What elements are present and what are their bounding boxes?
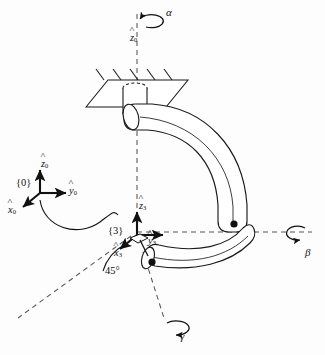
z0-axis-label: z0 [130,33,137,44]
joint-dot-upper [230,220,237,227]
frame0-x-label: x0 [8,205,16,216]
alpha-label: α [166,7,172,18]
frame3-z-label: z3 [139,201,146,212]
frame-connector-curve [40,200,118,230]
joint-dot-lower [148,258,155,265]
gamma-rotation-icon [167,321,189,335]
figure-canvas: α z0 {0} z0 y0 x0 {3} z3 y3 x3 45° β γ [0,0,325,355]
dashed-axes [18,14,312,318]
diagram-svg [0,0,325,355]
frame0-y-label: y0 [69,186,77,197]
frame3-x-label: x3 [114,248,122,259]
gamma-label: γ [180,331,184,342]
frame0-z-label: z0 [41,159,48,170]
beta-rotation-icon [287,226,305,240]
upper-link [121,103,247,232]
upper-link-tube-outline [124,104,247,232]
alpha-rotation-icon [140,15,163,28]
angle-label-45: 45° [105,266,120,277]
beta-label: β [305,247,310,258]
frame3-tag: {3} [108,226,123,237]
ceiling-hatching [96,69,172,80]
frame0-x-axis [23,193,40,207]
frame3-y-label: y3 [148,236,156,247]
frame0-triad [23,170,66,207]
frame0-tag: {0} [16,178,31,189]
